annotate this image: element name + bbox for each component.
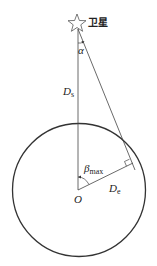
de-subscript: e — [117, 187, 121, 196]
beta-arrow — [78, 176, 81, 179]
beta-arc — [78, 177, 89, 185]
tangent-line — [78, 29, 135, 170]
origin-label: O — [74, 194, 82, 205]
ds-symbol: D — [63, 85, 71, 97]
satellite-star-icon — [68, 14, 86, 31]
de-label: De — [109, 183, 121, 196]
beta-subscript: max — [89, 167, 103, 176]
satellite-label: 卫星 — [88, 18, 108, 28]
alpha-label: α — [78, 45, 84, 56]
earth-circle — [13, 124, 146, 257]
ds-subscript: s — [71, 90, 74, 99]
de-symbol: D — [109, 182, 117, 194]
ds-label: Ds — [63, 86, 74, 99]
beta-max-label: βmax — [84, 163, 103, 176]
geometry-diagram — [0, 0, 157, 266]
